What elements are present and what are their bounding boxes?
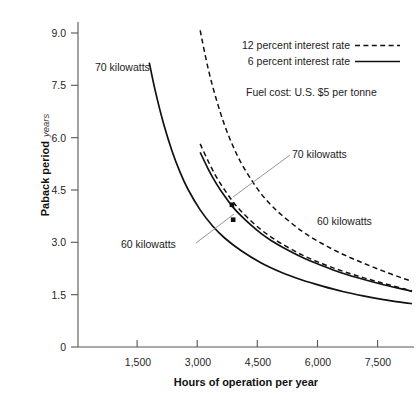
series-paths: [149, 30, 412, 303]
annotation-70kw-left: 70 kilowatts: [95, 62, 150, 73]
y-tick-label-9_0: 9.0: [34, 28, 66, 39]
annotation-60kw-right: 60 kilowatts: [317, 216, 372, 227]
y-axis-units: years: [40, 114, 51, 137]
x-tick-label-3000: 3,000: [177, 357, 219, 368]
fuel-cost-note: Fuel cost: U.S. $5 per tonne: [246, 87, 377, 98]
legend-label-12-percent: 12 percent interest rate: [230, 40, 350, 51]
annotation-70kw-callout: 70 kilowatts: [292, 149, 347, 160]
x-tick-label-1500: 1,500: [117, 357, 159, 368]
leader-70kw-callout: [233, 155, 290, 197]
y-axis-title: Paback period: [39, 141, 51, 216]
y-axis-ticks: [71, 33, 78, 347]
series-60kw-12pct: [200, 144, 412, 291]
y-tick-label-7_5: 7.5: [34, 80, 66, 91]
x-axis-ticks: [137, 340, 378, 347]
x-tick-label-6000: 6,000: [297, 357, 339, 368]
y-tick-label-0: 0: [34, 342, 66, 353]
x-tick-label-4500: 4,500: [237, 357, 279, 368]
legend-label-6-percent: 6 percent interest rate: [230, 56, 350, 67]
marker-60kw: [231, 217, 236, 222]
x-tick-label-7500: 7,500: [357, 357, 399, 368]
callout-leaders: [196, 155, 290, 243]
annotation-60kw-callout: 60 kilowatts: [121, 239, 176, 250]
marker-70kw: [230, 203, 235, 208]
payback-period-chart: 0 1.5 3.0 4.5 6.0 7.5 9.0 1,500 3,000 4,…: [0, 0, 420, 398]
leader-60kw-callout: [196, 214, 234, 243]
y-tick-label-1_5: 1.5: [34, 290, 66, 301]
y-tick-label-3_0: 3.0: [34, 237, 66, 248]
legend-swatches: [355, 46, 400, 62]
x-axis-title: Hours of operation per year: [78, 377, 414, 388]
point-markers: [230, 203, 236, 223]
y-axis-title-group: Paback period years: [39, 105, 69, 225]
